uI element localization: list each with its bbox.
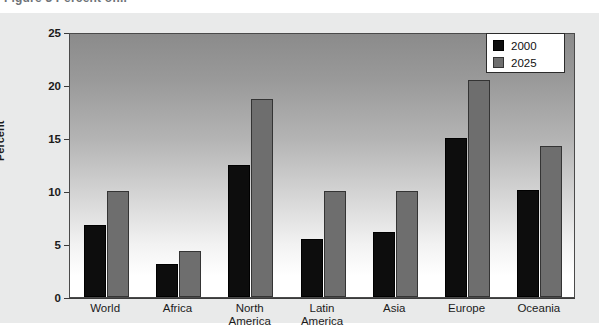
bar-latin-america-2000	[301, 239, 323, 297]
bar-world-2000	[84, 225, 106, 297]
y-axis-title: Percent	[0, 121, 6, 161]
figure-caption: Figure 3 Percent of...	[4, 0, 127, 5]
figure-caption-strip: Figure 3 Percent of...	[0, 0, 599, 8]
bar-europe-2000	[445, 138, 467, 297]
y-tick-label: 10	[35, 186, 61, 198]
y-tick-label: 20	[35, 80, 61, 92]
y-tick-label: 0	[35, 292, 61, 304]
x-axis-label: Europe	[448, 302, 485, 315]
legend-swatch-2025	[493, 57, 504, 68]
figure-panel: Percent 0510152025 WorldAfricaNorth Amer…	[0, 13, 599, 323]
legend-item-2000: 2000	[493, 37, 564, 54]
bar-latin-america-2025	[324, 191, 346, 297]
x-axis-label: Oceania	[517, 302, 560, 315]
bar-africa-2000	[156, 264, 178, 297]
y-tick-label: 15	[35, 133, 61, 145]
y-tick-label: 25	[35, 27, 61, 39]
x-axis-label: North America	[229, 302, 271, 328]
legend-label-2000: 2000	[511, 40, 537, 52]
y-tick-label: 5	[35, 239, 61, 251]
y-tick-mark	[64, 298, 69, 299]
bar-oceania-2000	[517, 190, 539, 297]
bar-europe-2025	[468, 80, 490, 297]
bar-oceania-2025	[540, 146, 562, 297]
legend-swatch-2000	[493, 40, 504, 51]
bar-north-america-2025	[251, 99, 273, 297]
bar-asia-2000	[373, 232, 395, 297]
bar-africa-2025	[179, 251, 201, 297]
legend-item-2025: 2025	[493, 54, 564, 71]
x-axis-line	[69, 298, 575, 299]
x-axis-label: Asia	[383, 302, 405, 315]
bar-world-2025	[107, 191, 129, 297]
chart-legend: 20002025	[486, 33, 565, 73]
bar-north-america-2000	[228, 165, 250, 298]
x-axis-label: World	[90, 302, 120, 315]
bar-asia-2025	[396, 191, 418, 297]
x-axis-label: Africa	[163, 302, 192, 315]
legend-label-2025: 2025	[511, 57, 537, 69]
x-axis-label: Latin America	[301, 302, 343, 328]
